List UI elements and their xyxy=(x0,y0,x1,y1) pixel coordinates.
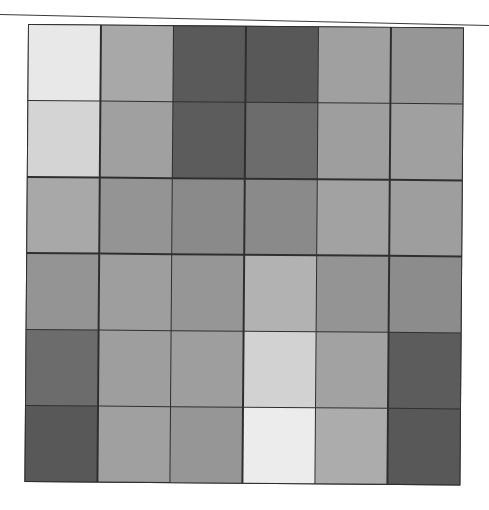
grid-cell-r2-c4 xyxy=(318,180,390,255)
grid-cell-r2-c2 xyxy=(172,179,244,254)
grid-cell-r1-c0 xyxy=(28,101,100,176)
grid-cell-r1-c4 xyxy=(318,104,390,179)
grid-cell-r2-c0 xyxy=(27,178,99,253)
grid xyxy=(24,24,464,485)
grid-cell-r3-c5 xyxy=(390,257,462,332)
grid-cell-r5-c4 xyxy=(316,409,388,484)
grid-cell-r1-c1 xyxy=(100,102,172,177)
grid-cell-r0-c2 xyxy=(174,26,246,101)
grayscale-grid-figure xyxy=(24,24,464,485)
grid-cell-r3-c2 xyxy=(172,255,244,330)
grid-cell-r4-c4 xyxy=(316,332,388,407)
grid-cell-r1-c2 xyxy=(173,102,245,177)
grid-cell-r5-c3 xyxy=(243,408,315,483)
grid-cell-r0-c5 xyxy=(391,28,463,103)
grid-cell-r5-c0 xyxy=(25,406,97,481)
grid-cell-r5-c5 xyxy=(388,409,460,484)
grid-cell-r3-c4 xyxy=(317,256,389,331)
grid-cell-r1-c5 xyxy=(391,104,463,179)
grid-cell-r2-c5 xyxy=(390,180,462,255)
grid-cell-r5-c2 xyxy=(171,407,243,482)
grid-cell-r4-c5 xyxy=(389,333,461,408)
page xyxy=(0,0,489,510)
grid-cell-r0-c0 xyxy=(28,25,100,100)
grid-cell-r3-c1 xyxy=(99,254,171,329)
grid-cell-r0-c3 xyxy=(246,27,318,102)
grid-cell-r4-c2 xyxy=(171,331,243,406)
grid-cell-r3-c0 xyxy=(27,254,99,329)
grid-cell-r4-c1 xyxy=(99,331,171,406)
grid-cell-r4-c3 xyxy=(244,332,316,407)
grid-cell-r3-c3 xyxy=(244,255,316,330)
grid-cell-r0-c1 xyxy=(101,26,173,101)
grid-cell-r2-c1 xyxy=(100,178,172,253)
grid-cell-r2-c3 xyxy=(245,179,317,254)
grid-cell-r4-c0 xyxy=(26,330,98,405)
grid-cell-r5-c1 xyxy=(98,407,170,482)
grid-cell-r0-c4 xyxy=(319,27,391,102)
grid-cell-r1-c3 xyxy=(246,103,318,178)
